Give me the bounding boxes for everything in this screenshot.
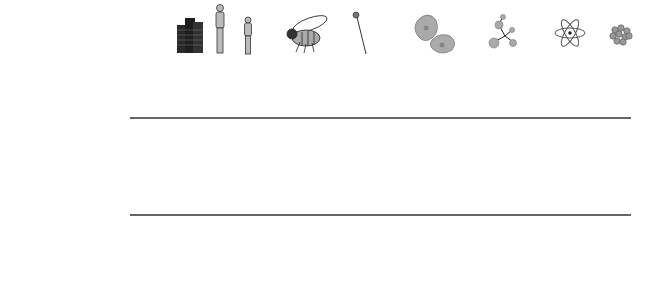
spectrum-diagram xyxy=(0,0,653,299)
molecules-icon xyxy=(489,15,517,49)
atomic-nucleus-icon xyxy=(610,25,632,45)
atom-icon xyxy=(555,18,585,49)
protozoans-icon xyxy=(415,15,455,53)
pinhead-icon xyxy=(353,12,366,54)
honey-bee-icon xyxy=(287,12,329,53)
building-icon xyxy=(177,18,203,53)
humans-icon xyxy=(216,5,252,55)
